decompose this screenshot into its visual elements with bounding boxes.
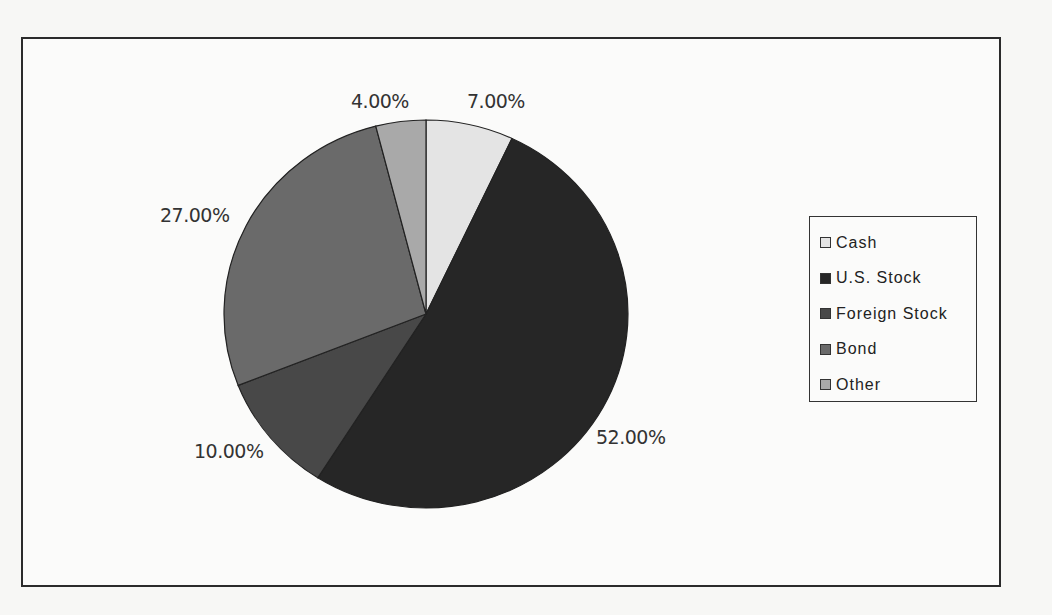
- legend-label: Bond: [836, 340, 877, 358]
- legend-swatch-other: [820, 379, 831, 390]
- data-label-foreign-stock: 10.00%: [194, 440, 263, 462]
- legend-label: Foreign Stock: [836, 305, 948, 323]
- data-label-cash: 7.00%: [467, 90, 525, 112]
- legend-item-cash[interactable]: Cash: [820, 225, 976, 261]
- legend-label: Cash: [836, 234, 877, 252]
- legend-item-other[interactable]: Other: [820, 367, 976, 403]
- legend-swatch-cash: [820, 237, 831, 248]
- legend-label: U.S. Stock: [836, 269, 922, 287]
- data-label-other: 4.00%: [351, 90, 409, 112]
- legend-item-bond[interactable]: Bond: [820, 332, 976, 368]
- legend: Cash U.S. Stock Foreign Stock Bond Other: [809, 216, 977, 402]
- legend-label: Other: [836, 376, 881, 394]
- legend-swatch-foreign-stock: [820, 308, 831, 319]
- legend-swatch-bond: [820, 344, 831, 355]
- legend-swatch-us-stock: [820, 273, 831, 284]
- legend-item-us-stock[interactable]: U.S. Stock: [820, 261, 976, 297]
- legend-item-foreign-stock[interactable]: Foreign Stock: [820, 296, 976, 332]
- data-label-bond: 27.00%: [160, 204, 229, 226]
- data-label-us-stock: 52.00%: [596, 426, 665, 448]
